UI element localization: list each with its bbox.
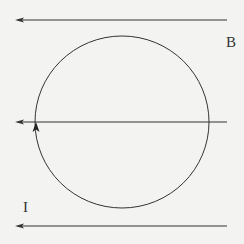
current-label: I: [23, 200, 28, 215]
diagram-canvas: [0, 0, 244, 244]
magnetic-field-label: B: [226, 35, 236, 50]
arrowhead-up-icon: [33, 122, 40, 132]
